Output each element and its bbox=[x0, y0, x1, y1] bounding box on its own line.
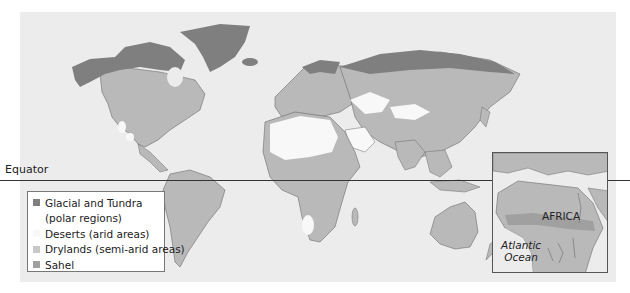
sahel-swatch bbox=[33, 261, 40, 268]
atlantic-ocean-label: Atlantic Ocean bbox=[501, 239, 541, 263]
legend-label: Glacial and Tundra bbox=[45, 197, 143, 209]
legend-item-deserts: Deserts (arid areas) bbox=[33, 226, 164, 242]
equator-label: Equator bbox=[5, 163, 48, 176]
legend-label: Drylands (semi-arid areas) bbox=[45, 243, 185, 255]
ocean-label-line2: Ocean bbox=[501, 251, 541, 263]
glacial-tundra-swatch bbox=[33, 199, 40, 206]
deserts-swatch bbox=[33, 230, 40, 237]
legend-label: Sahel bbox=[45, 259, 74, 271]
legend-item-sahel: Sahel bbox=[33, 257, 164, 273]
ocean-label-line1: Atlantic bbox=[501, 239, 541, 251]
legend-label: Deserts (arid areas) bbox=[45, 228, 149, 240]
map-legend: Glacial and Tundra (polar regions) Deser… bbox=[27, 191, 165, 272]
north-america-land bbox=[100, 67, 205, 147]
africa-label: AFRICA bbox=[542, 210, 580, 222]
australia-land bbox=[430, 202, 478, 249]
legend-item-glacial-tundra: Glacial and Tundra bbox=[33, 195, 164, 211]
legend-item-drylands: Drylands (semi-arid areas) bbox=[33, 242, 164, 258]
greenland-glacial bbox=[180, 24, 250, 72]
legend-label: (polar regions) bbox=[45, 212, 122, 224]
africa-inset-map: AFRICA Atlantic Ocean bbox=[492, 152, 608, 273]
legend-item-polar-note: (polar regions) bbox=[33, 211, 164, 227]
drylands-swatch bbox=[33, 246, 40, 253]
